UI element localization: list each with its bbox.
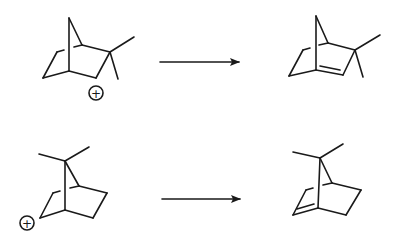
reactant-1-molecule: + <box>43 18 134 101</box>
svg-text:+: + <box>91 87 101 101</box>
product-2-molecule <box>293 144 361 215</box>
reaction-scheme: + + <box>0 0 398 240</box>
cation-charge-icon: + <box>20 216 34 231</box>
reaction-diagram: + + <box>0 0 398 240</box>
cation-charge-icon: + <box>89 86 103 101</box>
reactant-2-molecule: + <box>20 147 107 231</box>
product-1-molecule <box>289 16 380 77</box>
svg-text:+: + <box>22 217 32 231</box>
